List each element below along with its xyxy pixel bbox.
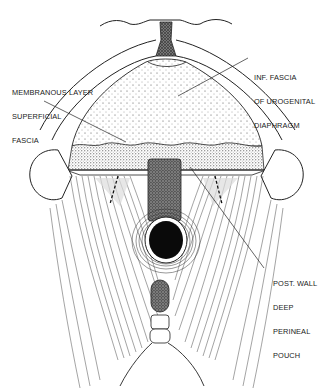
label-line: POST. WALL xyxy=(273,280,317,288)
anococcygeal-body xyxy=(151,280,169,312)
ischial-tuberosity-right xyxy=(261,150,303,200)
label-line: MEMBRANOUS LAYER xyxy=(12,89,93,97)
label-line: POUCH xyxy=(273,352,317,360)
muscle-fibers-right xyxy=(173,176,283,388)
label-line: PERINEAL xyxy=(273,328,317,336)
label-inf-fascia: INF. FASCIA OF UROGENITAL DIAPHRAGM xyxy=(254,58,315,138)
label-line: DEEP xyxy=(273,304,317,312)
inf-fascia-urogenital-diaphragm xyxy=(72,59,262,146)
label-line: INF. FASCIA xyxy=(254,74,315,82)
ischial-tuberosity-left xyxy=(30,150,72,200)
muscle-fibers-left xyxy=(50,176,160,388)
coccyx-outline xyxy=(120,343,204,386)
label-line: FASCIA xyxy=(12,137,93,145)
clitoris xyxy=(156,22,176,56)
label-line: DIAPHRAGM xyxy=(254,122,315,130)
perineal-body xyxy=(148,159,181,221)
anatomy-figure: MEMBRANOUS LAYER SUPERFICIAL FASCIA INF.… xyxy=(0,0,333,392)
label-line: OF UROGENITAL xyxy=(254,98,315,106)
label-membranous-layer: MEMBRANOUS LAYER SUPERFICIAL FASCIA xyxy=(12,73,93,153)
label-line: SUPERFICIAL xyxy=(12,113,93,121)
label-post-wall: POST. WALL DEEP PERINEAL POUCH xyxy=(273,264,317,368)
anus xyxy=(149,221,183,259)
